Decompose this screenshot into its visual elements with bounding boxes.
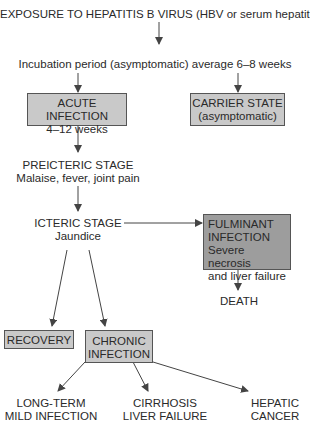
preicteric-symptoms: Malaise, fever, joint pain bbox=[0, 172, 156, 185]
outcome-cancer-1: HEPATIC bbox=[240, 397, 310, 410]
exposure-title: EXPOSURE TO HEPATITIS B VIRUS (HBV or se… bbox=[0, 8, 310, 21]
chronic-label-1: CHRONIC bbox=[86, 335, 152, 348]
outcome-cirrhosis-2: LIVER FAILURE bbox=[120, 410, 210, 423]
incubation-period: Incubation period (asymptomatic) average… bbox=[0, 58, 310, 71]
carrier-state-box: CARRIER STATE (asymptomatic) bbox=[190, 93, 285, 126]
acute-label: ACUTE INFECTION bbox=[28, 97, 126, 123]
fulminant-infection-box: FULMINANT INFECTION Severe necrosis and … bbox=[203, 214, 291, 270]
icteric-symptom: Jaundice bbox=[28, 230, 128, 243]
fulminant-label-1: FULMINANT bbox=[208, 218, 290, 231]
outcome-hepatic-cancer: HEPATIC CANCER bbox=[240, 397, 310, 423]
outcome-long-term: LONG-TERM MILD INFECTION bbox=[0, 397, 102, 423]
outcome-cancer-2: CANCER bbox=[240, 410, 310, 423]
fulminant-label-2: INFECTION bbox=[208, 231, 290, 244]
preicteric-stage: PREICTERIC STAGE Malaise, fever, joint p… bbox=[0, 159, 156, 185]
recovery-box: RECOVERY bbox=[4, 330, 74, 349]
carrier-label: CARRIER STATE bbox=[191, 97, 284, 110]
chronic-infection-box: CHRONIC INFECTION bbox=[85, 330, 153, 363]
icteric-label: ICTERIC STAGE bbox=[28, 217, 128, 230]
fulminant-desc-1: Severe necrosis bbox=[208, 244, 290, 270]
acute-duration: 4–12 weeks bbox=[28, 123, 126, 136]
icteric-stage: ICTERIC STAGE Jaundice bbox=[28, 217, 128, 243]
fulminant-desc-2: and liver failure bbox=[208, 270, 290, 283]
acute-infection-box: ACUTE INFECTION 4–12 weeks bbox=[27, 93, 127, 126]
outcome-long-term-1: LONG-TERM bbox=[0, 397, 102, 410]
chronic-label-2: INFECTION bbox=[86, 348, 152, 361]
outcome-cirrhosis: CIRRHOSIS LIVER FAILURE bbox=[120, 397, 210, 423]
outcome-long-term-2: MILD INFECTION bbox=[0, 410, 102, 423]
carrier-note: (asymptomatic) bbox=[191, 110, 284, 123]
preicteric-label: PREICTERIC STAGE bbox=[0, 159, 156, 172]
death-label: DEATH bbox=[199, 295, 279, 308]
outcome-cirrhosis-1: CIRRHOSIS bbox=[120, 397, 210, 410]
